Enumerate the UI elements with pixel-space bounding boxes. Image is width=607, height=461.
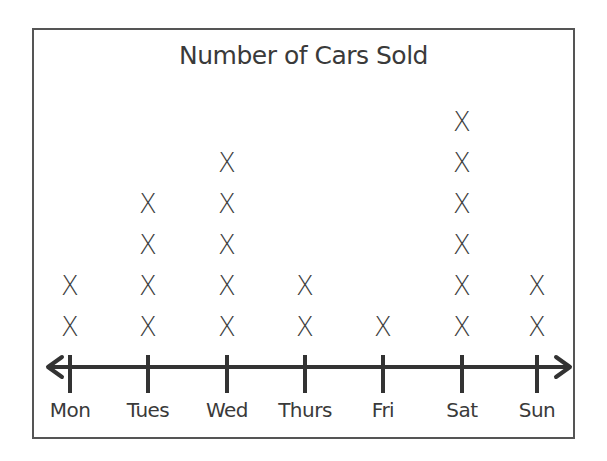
axis-label-tues: Tues: [113, 398, 183, 422]
x-mark: X: [447, 109, 477, 135]
x-mark: X: [55, 314, 85, 340]
x-mark: X: [133, 314, 163, 340]
x-mark: X: [212, 191, 242, 217]
x-mark: X: [447, 150, 477, 176]
x-mark: X: [212, 150, 242, 176]
x-mark: X: [368, 314, 398, 340]
number-line: [0, 0, 607, 461]
x-mark: X: [522, 273, 552, 299]
x-mark: X: [133, 191, 163, 217]
axis-label-fri: Fri: [348, 398, 418, 422]
x-mark: X: [522, 314, 552, 340]
x-mark: X: [55, 273, 85, 299]
x-mark: X: [133, 232, 163, 258]
x-mark: X: [290, 314, 320, 340]
axis-label-sun: Sun: [502, 398, 572, 422]
x-mark: X: [447, 273, 477, 299]
x-mark: X: [133, 273, 163, 299]
x-mark: X: [447, 314, 477, 340]
axis-label-wed: Wed: [192, 398, 262, 422]
x-mark: X: [212, 232, 242, 258]
x-mark: X: [447, 232, 477, 258]
axis-label-sat: Sat: [427, 398, 497, 422]
x-mark: X: [212, 314, 242, 340]
x-mark: X: [212, 273, 242, 299]
axis-label-thurs: Thurs: [270, 398, 340, 422]
x-mark: X: [290, 273, 320, 299]
axis-label-mon: Mon: [35, 398, 105, 422]
x-mark: X: [447, 191, 477, 217]
